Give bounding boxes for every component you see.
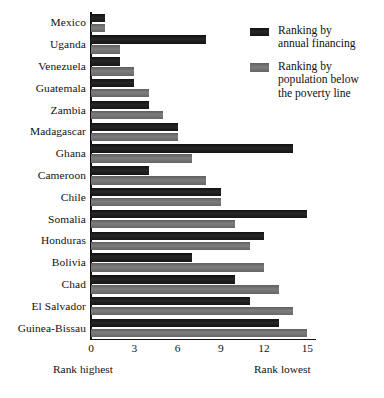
bar-financing	[91, 232, 264, 240]
category-label: Uganda	[0, 38, 86, 50]
bar-financing	[91, 14, 105, 22]
category-label: Bolivia	[0, 256, 86, 268]
category-label: Zambia	[0, 104, 86, 116]
bar-poverty	[91, 176, 206, 184]
bar-financing	[91, 297, 250, 305]
x-tick-label: 0	[88, 341, 94, 355]
category-axis-labels: MexicoUgandaVenezuelaGuatemalaZambiaMada…	[0, 12, 86, 339]
category-label: Guinea-Bissau	[0, 322, 86, 334]
x-tick-label: 3	[131, 341, 137, 355]
bar-poverty	[91, 307, 293, 315]
legend-label-line: population below	[278, 73, 382, 86]
bar-financing	[91, 253, 192, 261]
bar-poverty	[91, 220, 235, 228]
category-label: Madagascar	[0, 125, 86, 137]
x-tick-label: 12	[258, 341, 269, 355]
x-axis-tick-labels: 03691215	[0, 341, 384, 357]
bar-group	[91, 295, 316, 317]
bar-financing	[91, 35, 206, 43]
bar-poverty	[91, 285, 279, 293]
legend-label-line: the poverty line	[278, 87, 382, 100]
bar-group	[91, 252, 316, 274]
bar-financing	[91, 123, 178, 131]
bar-poverty	[91, 242, 250, 250]
bar-financing	[91, 166, 149, 174]
bar-group	[91, 165, 316, 187]
x-tick-label: 15	[302, 341, 313, 355]
bar-poverty	[91, 154, 192, 162]
bar-group	[91, 208, 316, 230]
axis-caption-left: Rank highest	[53, 362, 113, 376]
bar-group	[91, 274, 316, 296]
legend-item: Ranking bypopulation belowthe poverty li…	[250, 60, 382, 100]
bar-financing	[91, 144, 293, 152]
category-label: Somalia	[0, 213, 86, 225]
category-label: Cameroon	[0, 169, 86, 181]
legend-item: Ranking byannual financing	[250, 24, 382, 51]
bar-poverty	[91, 67, 134, 75]
bar-poverty	[91, 45, 120, 53]
bar-poverty	[91, 329, 307, 337]
legend-label-line: Ranking by	[278, 24, 382, 37]
bar-financing	[91, 101, 149, 109]
category-label: Honduras	[0, 234, 86, 246]
x-tick-label: 9	[218, 341, 224, 355]
bar-poverty	[91, 89, 149, 97]
bar-financing	[91, 319, 279, 327]
x-tick-label: 6	[175, 341, 181, 355]
category-label: Chad	[0, 278, 86, 290]
bar-financing	[91, 57, 120, 65]
bar-group	[91, 317, 316, 339]
legend-swatch-dark	[250, 28, 269, 37]
bar-group	[91, 230, 316, 252]
bar-poverty	[91, 111, 163, 119]
bar-poverty	[91, 24, 105, 32]
category-label: Chile	[0, 191, 86, 203]
bar-group	[91, 186, 316, 208]
bar-financing	[91, 275, 235, 283]
legend-label-line: annual financing	[278, 37, 382, 50]
axis-caption-right: Rank lowest	[254, 362, 311, 376]
bar-poverty	[91, 263, 264, 271]
horizontal-bar-chart: MexicoUgandaVenezuelaGuatemalaZambiaMada…	[0, 0, 384, 398]
bar-financing	[91, 188, 221, 196]
category-label: Guatemala	[0, 82, 86, 94]
bar-financing	[91, 210, 307, 218]
category-label: El Salvador	[0, 300, 86, 312]
chart-legend: Ranking byannual financingRanking bypopu…	[250, 24, 382, 109]
category-label: Venezuela	[0, 60, 86, 72]
bar-group	[91, 121, 316, 143]
legend-label-line: Ranking by	[278, 60, 382, 73]
category-label: Ghana	[0, 147, 86, 159]
category-label: Mexico	[0, 16, 86, 28]
bar-financing	[91, 79, 134, 87]
legend-swatch-gray	[250, 63, 269, 72]
bar-poverty	[91, 133, 178, 141]
bar-poverty	[91, 198, 221, 206]
bar-group	[91, 143, 316, 165]
